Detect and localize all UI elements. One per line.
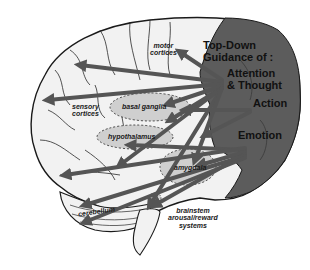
top-down-title: Top-Down Guidance of : — [203, 40, 273, 63]
attention-line1: Attention — [227, 68, 282, 80]
action-label: Action — [253, 98, 287, 110]
hypothalamus-label: hypothalamus — [108, 133, 155, 140]
sensory-cortices-label: sensory cortices — [72, 103, 99, 118]
brainstem-label-line3: systems — [168, 222, 218, 229]
emotion-label: Emotion — [238, 130, 282, 142]
sensory-label-line1: sensory — [72, 103, 99, 110]
amygdala-label: amygdala — [174, 164, 206, 171]
motor-label-line2: cortices — [150, 49, 177, 56]
brainstem-label-line2: arousal/reward — [168, 214, 218, 221]
basal-ganglia-label: basal ganglia — [122, 103, 166, 110]
motor-cortices-label: motor cortices — [150, 42, 177, 57]
sensory-label-line2: cortices — [72, 110, 99, 117]
brainstem-label-line1: brainstem — [168, 207, 218, 214]
title-line1: Top-Down — [203, 40, 273, 52]
title-line2: Guidance of : — [203, 52, 273, 64]
motor-label-line1: motor — [150, 42, 177, 49]
attention-thought-label: Attention & Thought — [227, 68, 282, 91]
attention-line2: & Thought — [227, 80, 282, 92]
brainstem-label: brainstem arousal/reward systems — [168, 207, 218, 229]
